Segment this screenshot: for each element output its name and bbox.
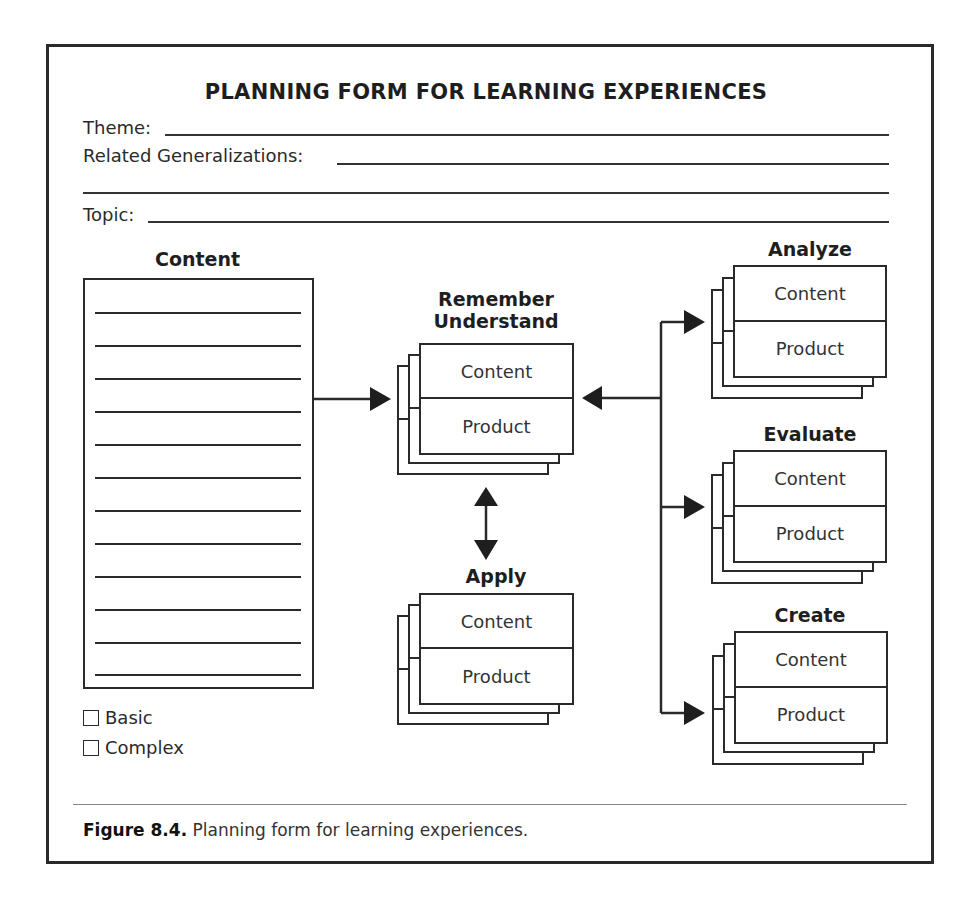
arrow-right-icon: [684, 310, 705, 334]
stack-card-front: Content Product: [419, 343, 574, 455]
stack-card-front: Content Product: [733, 265, 887, 378]
caption-divider: [73, 804, 907, 805]
apply-heading: Apply: [419, 565, 573, 587]
analyze-content-cell[interactable]: Content: [735, 267, 885, 322]
remember-heading: Remember: [419, 288, 573, 310]
figure-caption-text: Planning form for learning experiences.: [187, 820, 528, 840]
apply-product-cell[interactable]: Product: [421, 649, 572, 703]
apply-content-cell[interactable]: Content: [421, 595, 572, 649]
stack-card-front: Content Product: [734, 631, 888, 744]
arrow-up-icon: [474, 487, 498, 506]
arrow-right-icon: [684, 701, 705, 725]
stack-card-front: Content Product: [419, 593, 574, 705]
understand-heading: Understand: [419, 310, 573, 332]
create-product-cell[interactable]: Product: [736, 688, 886, 743]
figure-number: Figure 8.4.: [83, 820, 187, 840]
evaluate-content-cell[interactable]: Content: [735, 452, 885, 507]
figure-caption: Figure 8.4. Planning form for learning e…: [83, 820, 528, 840]
remember-content-cell[interactable]: Content: [421, 345, 572, 399]
evaluate-heading: Evaluate: [733, 423, 887, 445]
arrow-left-icon: [582, 386, 602, 410]
create-content-cell[interactable]: Content: [736, 633, 886, 688]
arrow-right-icon: [684, 495, 705, 519]
create-heading: Create: [733, 604, 887, 626]
remember-understand-heading: Remember Understand: [419, 288, 573, 332]
analyze-product-cell[interactable]: Product: [735, 322, 885, 377]
remember-product-cell[interactable]: Product: [421, 399, 572, 453]
evaluate-product-cell[interactable]: Product: [735, 507, 885, 562]
arrow-down-icon: [474, 540, 498, 560]
analyze-heading: Analyze: [733, 238, 887, 260]
arrow-right-icon: [370, 387, 391, 411]
stack-card-front: Content Product: [733, 450, 887, 563]
